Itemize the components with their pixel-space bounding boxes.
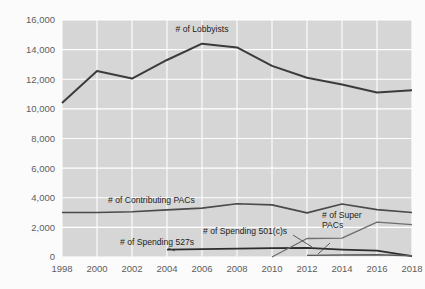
y-tick-14000: 14,000 [26, 44, 55, 55]
x-tick-2016: 2016 [366, 263, 387, 274]
y-axis-tick-labels: 16,000 14,000 12,000 10,000 8,000 6,000 … [26, 14, 55, 262]
label-contributing-pacs: # of Contributing PACs [108, 195, 195, 205]
chart-container: 16,000 14,000 12,000 10,000 8,000 6,000 … [0, 0, 425, 289]
label-spending-501cs: # of Spending 501(c)s [203, 226, 287, 236]
y-tick-16000: 16,000 [26, 14, 55, 25]
x-tick-2004: 2004 [156, 263, 177, 274]
x-tick-2014: 2014 [331, 263, 352, 274]
x-tick-2000: 2000 [86, 263, 107, 274]
line-chart: 16,000 14,000 12,000 10,000 8,000 6,000 … [0, 0, 425, 289]
label-lobbyists: # of Lobbyists [175, 24, 228, 34]
y-tick-2000: 2,000 [31, 222, 55, 233]
y-tick-6000: 6,000 [31, 163, 55, 174]
y-tick-0: 0 [50, 251, 55, 262]
x-tick-2018: 2018 [401, 263, 422, 274]
x-tick-2008: 2008 [226, 263, 247, 274]
label-super-pacs-line2: PACs [322, 220, 343, 230]
label-super-pacs-line1: # of Super [322, 210, 362, 220]
x-tick-2012: 2012 [296, 263, 317, 274]
x-tick-2010: 2010 [261, 263, 282, 274]
y-tick-10000: 10,000 [26, 103, 55, 114]
y-tick-12000: 12,000 [26, 74, 55, 85]
x-axis-tick-labels: 1998 2000 2002 2004 2006 2008 2010 2012 … [51, 263, 422, 274]
label-spending-527s: # of Spending 527s [120, 237, 194, 247]
x-tick-1998: 1998 [51, 263, 72, 274]
y-tick-8000: 8,000 [31, 133, 55, 144]
y-tick-4000: 4,000 [31, 192, 55, 203]
x-tick-2002: 2002 [121, 263, 142, 274]
x-tick-2006: 2006 [191, 263, 212, 274]
